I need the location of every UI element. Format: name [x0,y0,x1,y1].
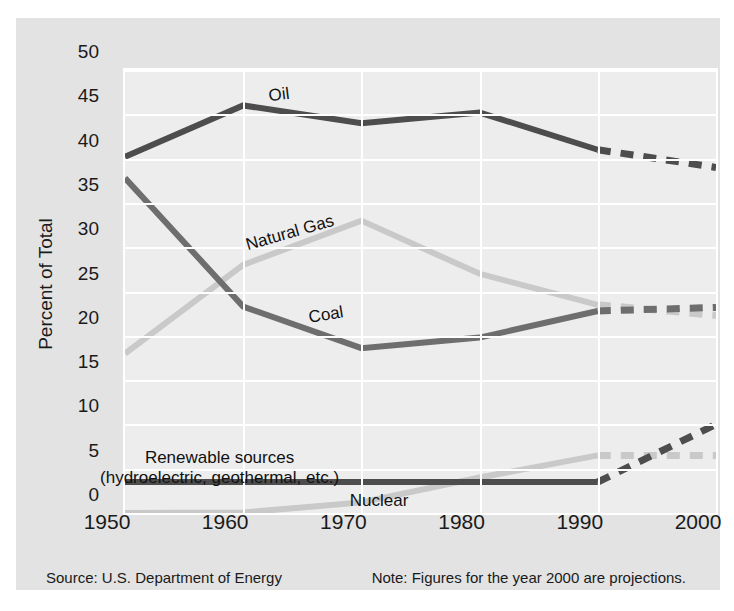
y-tick-label: 40 [51,131,99,150]
gridline-horizontal [125,247,716,249]
gridline-horizontal [125,424,716,426]
gridline-vertical [243,70,245,513]
series-label-oil: Oil [267,84,290,106]
gridline-horizontal [125,159,716,161]
y-tick-label: 25 [51,264,99,283]
source-note: Source: U.S. Department of Energy [46,569,282,586]
gridline-horizontal [125,336,716,338]
series-label-line2: (hydroelectric, geothermal, etc.) [100,468,339,488]
plot-area: OilNatural GasCoalRenewable sources(hydr… [123,68,718,515]
series-line-projection [598,307,716,311]
y-tick-label: 0 [51,485,99,504]
series-label-line1: Renewable sources [100,448,339,468]
y-tick-label: 35 [51,175,99,194]
gridline-horizontal [125,70,716,72]
series-label-nuclear: Nuclear [350,491,409,511]
gridline-vertical [361,70,363,513]
gridline-horizontal [125,292,716,294]
gridline-vertical [716,70,718,513]
gridline-horizontal [125,380,716,382]
energy-sources-chart-figure: Percent of Total 05101520253035404550 19… [0,0,734,611]
projection-note: Note: Figures for the year 2000 are proj… [372,569,686,586]
y-tick-label: 10 [51,396,99,415]
gridline-vertical [598,70,600,513]
y-tick-label: 45 [51,86,99,105]
y-tick-label: 30 [51,219,99,238]
y-tick-label: 20 [51,308,99,327]
gridline-vertical [480,70,482,513]
chart-panel: Percent of Total 05101520253035404550 19… [16,18,720,590]
gridline-horizontal [125,203,716,205]
y-tick-label: 5 [51,441,99,460]
y-tick-label: 15 [51,352,99,371]
y-tick-label: 50 [51,42,99,61]
series-label-renewable-sources: Renewable sources(hydroelectric, geother… [100,448,339,488]
gridline-horizontal [125,114,716,116]
